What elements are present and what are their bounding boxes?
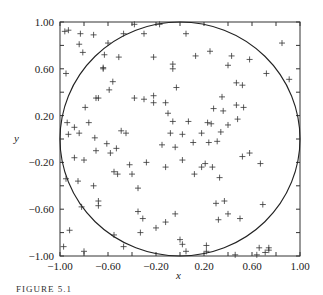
plus-marker: [241, 104, 247, 110]
plus-marker: [165, 110, 171, 116]
y-axis-label: y: [13, 132, 19, 144]
plus-marker: [215, 217, 221, 223]
plus-marker: [113, 145, 119, 151]
plus-marker: [65, 27, 71, 33]
plus-marker: [211, 106, 217, 112]
plus-marker: [286, 76, 292, 82]
plus-marker: [64, 120, 70, 126]
y-tick-label: −1.00: [29, 250, 55, 262]
plus-marker: [179, 131, 185, 137]
x-axis-label: x: [175, 269, 181, 280]
plus-marker: [225, 211, 231, 217]
plus-marker: [163, 164, 169, 170]
plus-marker: [257, 161, 263, 167]
plus-marker: [183, 31, 189, 37]
plus-marker: [93, 148, 99, 154]
plus-marker: [170, 61, 176, 67]
plus-marker: [105, 40, 111, 46]
plus-marker: [191, 171, 197, 177]
plus-marker: [217, 175, 223, 181]
plus-marker: [183, 248, 189, 254]
plus-marker: [232, 252, 238, 258]
y-tick-label: 0.20: [35, 110, 55, 122]
plus-marker: [71, 124, 77, 130]
plus-marker: [247, 56, 253, 62]
plus-marker: [239, 154, 245, 160]
plus-marker: [100, 65, 106, 71]
plus-marker: [61, 244, 67, 250]
plus-marker: [205, 120, 211, 126]
plus-marker: [172, 211, 178, 217]
plus-marker: [172, 144, 178, 150]
plus-marker: [129, 171, 135, 177]
plus-marker: [121, 31, 127, 37]
plus-marker: [163, 100, 169, 106]
tick-labels: −1.00−0.60−0.200.200.601.00−1.00−0.60−0.…: [29, 16, 311, 272]
scatter-chart: −1.00−0.60−0.200.200.601.00−1.00−0.60−0.…: [0, 0, 323, 280]
plus-marker: [233, 80, 239, 86]
x-tick-label: −0.60: [95, 260, 121, 272]
plus-marker: [233, 102, 239, 108]
axis-ticks: [60, 22, 300, 256]
plus-marker: [260, 202, 266, 208]
plus-marker: [71, 155, 77, 161]
plus-marker: [219, 94, 225, 100]
plus-marker: [135, 209, 141, 215]
plus-marker: [263, 70, 269, 76]
unit-circle: [60, 22, 300, 256]
plus-marker: [151, 54, 157, 60]
plus-marker: [82, 104, 88, 110]
plus-marker: [62, 28, 68, 34]
plus-marker: [135, 185, 141, 191]
y-tick-label: −0.60: [29, 203, 55, 215]
plus-marker: [137, 230, 143, 236]
plus-marker: [163, 219, 169, 225]
plus-marker: [247, 150, 253, 156]
plus-marker: [106, 87, 112, 93]
plus-marker: [101, 52, 107, 58]
plus-marker: [167, 130, 173, 136]
plus-marker: [254, 252, 260, 258]
plus-marker: [185, 118, 191, 124]
plus-marker: [121, 244, 127, 250]
plus-marker: [63, 70, 69, 76]
plus-marker: [77, 31, 83, 37]
plus-marker: [220, 108, 226, 114]
plus-marker: [75, 178, 81, 184]
y-tick-label: 1.00: [35, 16, 55, 28]
plus-marker: [229, 53, 235, 59]
plus-marker: [141, 31, 147, 37]
plus-marker: [67, 227, 73, 233]
x-tick-label: 0.20: [194, 260, 214, 272]
plus-marker: [203, 242, 209, 248]
plus-marker: [95, 203, 101, 209]
figure-caption: FIGURE 5.1: [16, 284, 72, 294]
plus-marker: [208, 121, 214, 127]
plus-marker: [141, 96, 147, 102]
plus-marker: [92, 135, 98, 141]
x-tick-label: −0.20: [143, 260, 169, 272]
plus-marker: [206, 140, 212, 146]
plus-marker: [140, 216, 146, 222]
plus-marker: [159, 142, 165, 148]
plus-marker: [279, 40, 285, 46]
plus-marker: [110, 79, 116, 85]
plus-marker: [214, 138, 220, 144]
plus-marker: [80, 49, 86, 55]
plus-marker: [86, 120, 92, 126]
plus-marker: [218, 129, 224, 135]
plus-marker: [209, 164, 215, 170]
plus-marker: [151, 100, 157, 106]
plus-marker: [237, 216, 243, 222]
plus-marker: [111, 232, 117, 238]
x-tick-label: 1.00: [290, 260, 310, 272]
plus-marker: [131, 95, 137, 101]
plus-marker: [239, 82, 245, 88]
plus-marker: [202, 161, 208, 167]
plus-marker: [235, 116, 241, 122]
plus-marker: [170, 118, 176, 124]
plus-marker: [65, 131, 71, 137]
plus-marker: [143, 159, 149, 165]
y-tick-label: −0.20: [29, 156, 55, 168]
plus-marker: [207, 48, 213, 54]
